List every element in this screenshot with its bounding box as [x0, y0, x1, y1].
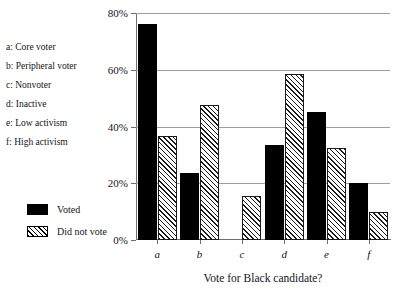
- bar-f-voted: [349, 183, 368, 240]
- y-tick-mark: [131, 127, 136, 128]
- bar-c-did-not-vote: [242, 196, 261, 240]
- y-tick-label: 40%: [108, 121, 128, 133]
- y-tick-mark: [131, 70, 136, 71]
- bar-a-voted: [138, 24, 157, 240]
- y-tick-mark: [131, 183, 136, 184]
- legend-item-voted: Voted: [27, 200, 147, 219]
- bar-e-did-not-vote: [327, 148, 346, 240]
- y-tick-label: 0%: [113, 234, 128, 246]
- x-tick-mark: [200, 240, 201, 244]
- category-key-item-f: f: High activism: [6, 133, 106, 152]
- category-key-item-a: a: Core voter: [6, 38, 106, 57]
- x-tick-mark: [157, 240, 158, 244]
- legend-label-voted: Voted: [57, 204, 80, 215]
- bar-a-did-not-vote: [158, 136, 177, 240]
- x-tick-label-d: d: [281, 248, 287, 260]
- bar-d-did-not-vote: [285, 74, 304, 240]
- x-tick-mark: [369, 240, 370, 244]
- y-tick-mark: [131, 13, 136, 14]
- bar-b-did-not-vote: [200, 105, 219, 240]
- chart-plot-area: 0%20%40%60%80% abcdef: [136, 13, 390, 240]
- x-tick-label-a: a: [154, 248, 160, 260]
- x-tick-label-b: b: [197, 248, 203, 260]
- chart-legend: Voted Did not vote: [27, 200, 147, 244]
- y-tick-label: 20%: [108, 177, 128, 189]
- legend-item-did-not-vote: Did not vote: [27, 222, 147, 241]
- x-tick-label-f: f: [367, 248, 370, 260]
- gridline: [136, 127, 390, 128]
- x-tick-label-e: e: [324, 248, 329, 260]
- category-key-item-e: e: Low activism: [6, 114, 106, 133]
- x-tick-mark: [327, 240, 328, 244]
- category-key-item-c: c: Nonvoter: [6, 76, 106, 95]
- legend-label-did-not-vote: Did not vote: [57, 226, 107, 237]
- x-axis-title: Vote for Black candidate?: [136, 272, 390, 284]
- y-tick-label: 60%: [108, 64, 128, 76]
- gridline: [136, 13, 390, 14]
- category-key: a: Core voter b: Peripheral voter c: Non…: [6, 38, 106, 152]
- bar-f-did-not-vote: [369, 212, 388, 240]
- bar-b-voted: [180, 173, 199, 240]
- gridline: [136, 70, 390, 71]
- legend-swatch-solid-icon: [27, 204, 48, 215]
- bar-e-voted: [307, 112, 326, 240]
- legend-swatch-hatched-icon: [27, 226, 48, 237]
- x-tick-label-c: c: [239, 248, 244, 260]
- bar-d-voted: [265, 145, 284, 240]
- category-key-item-d: d: Inactive: [6, 95, 106, 114]
- y-tick-mark: [131, 240, 136, 241]
- x-tick-mark: [284, 240, 285, 244]
- x-tick-mark: [242, 240, 243, 244]
- y-tick-label: 80%: [108, 7, 128, 19]
- category-key-item-b: b: Peripheral voter: [6, 57, 106, 76]
